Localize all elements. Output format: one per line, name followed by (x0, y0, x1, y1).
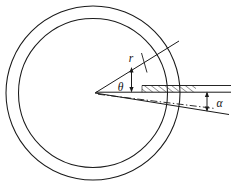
alpha-angle-indicator (205, 92, 209, 112)
outer-circle (6, 6, 180, 180)
apex-centerline (98, 94, 215, 108)
alpha-label: α (217, 97, 224, 109)
theta-label: θ (118, 81, 124, 93)
radius-tick-mark (142, 53, 148, 73)
hatched-band (142, 86, 231, 93)
radius-label: r (129, 52, 134, 64)
inner-circle (19, 19, 168, 168)
technical-diagram-figure: r θ α (0, 0, 234, 186)
diagram-canvas: r θ α (0, 0, 234, 186)
